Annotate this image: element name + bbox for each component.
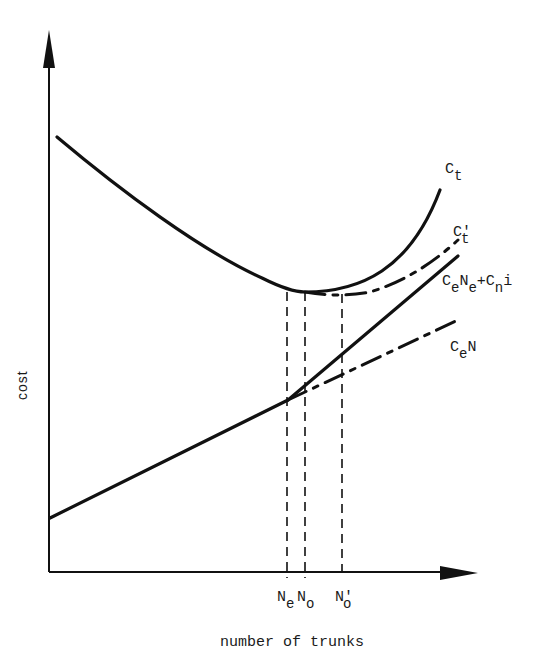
x-axis-label: number of trunks <box>220 634 364 651</box>
x-axis <box>49 566 478 580</box>
label-ct-prime: C't <box>453 225 469 240</box>
tick-ne: Ne <box>277 590 294 605</box>
tick-no: No <box>297 590 314 605</box>
curve-cen-dashed <box>288 320 458 400</box>
label-ct: Ct <box>445 162 462 177</box>
y-axis-label: cost <box>14 370 30 400</box>
curve-ct-prime <box>305 240 458 295</box>
label-cene-cni: CeNe+Cni <box>442 274 512 289</box>
tick-no-prime: N'o <box>335 590 351 605</box>
x-axis-arrow-icon <box>440 566 478 580</box>
curve-ct <box>57 137 440 292</box>
y-axis-arrow-icon <box>43 30 55 68</box>
y-axis <box>43 30 55 572</box>
label-cen: CeN <box>450 340 476 355</box>
cost-diagram <box>0 0 558 656</box>
guide-lines <box>287 292 342 578</box>
curve-cen-solid <box>50 400 288 518</box>
